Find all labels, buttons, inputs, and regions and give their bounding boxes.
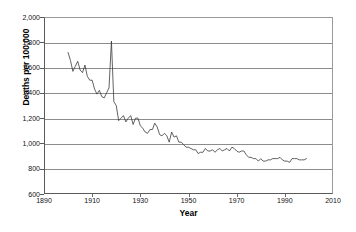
x-tick-label-1970: 1970	[217, 197, 257, 204]
y-tick-label-2000: 2,000	[0, 14, 40, 21]
series-line-deaths-per-100000	[68, 41, 306, 162]
y-tick-label-1800: 1,800	[0, 39, 40, 46]
x-tick-mark-1970	[237, 194, 238, 197]
x-tick-mark-1930	[140, 194, 141, 197]
y-tick-mark-600	[40, 194, 44, 195]
x-tick-label-1990: 1990	[265, 197, 305, 204]
x-tick-label-1950: 1950	[169, 197, 209, 204]
mortality-line-chart: Deaths per 100,000 Year 6008001,0001,200…	[0, 0, 356, 232]
x-tick-mark-1950	[189, 194, 190, 197]
y-tick-label-1000: 1,000	[0, 140, 40, 147]
y-tick-label-1600: 1,600	[0, 64, 40, 71]
data-series-layer	[44, 17, 333, 194]
y-tick-label-800: 800	[0, 165, 40, 172]
x-tick-label-2010: 2010	[313, 197, 353, 204]
x-tick-mark-1910	[92, 194, 93, 197]
x-tick-label-1910: 1910	[72, 197, 112, 204]
x-tick-mark-1990	[285, 194, 286, 197]
x-tick-label-1930: 1930	[120, 197, 160, 204]
y-tick-label-1200: 1,200	[0, 115, 40, 122]
y-tick-label-1400: 1,400	[0, 89, 40, 96]
x-axis-title: Year	[44, 208, 333, 218]
x-tick-label-1890: 1890	[24, 197, 64, 204]
